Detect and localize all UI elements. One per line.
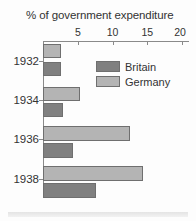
bottom-decorative-band [8,212,188,217]
y-axis-category-label: 1934 [1,94,39,106]
bar-britain-1936 [43,143,73,158]
bar-britain-1932 [43,62,61,76]
x-axis-tick [78,41,79,45]
legend-item-britain: Britain [96,60,156,73]
bar-britain-1934 [43,103,63,117]
bar-germany-1932 [43,44,61,58]
y-axis-category-label: 1936 [1,133,39,145]
x-axis-line [43,41,189,42]
bar-germany-1938 [43,166,143,181]
x-axis-tick-label: 10 [107,26,119,38]
x-axis-tick [113,41,114,45]
chart-container: % of government expenditure 5 10 15 20 1… [0,0,196,221]
legend-item-germany: Germany [96,75,170,88]
x-axis-tick [182,41,183,45]
x-axis-tick-label: 15 [141,26,153,38]
y-axis-category-label: 1932 [1,55,39,67]
legend-label: Britain [125,61,156,73]
y-axis-category-label: 1938 [1,173,39,185]
x-axis-tick [147,41,148,45]
plot-area: 5 10 15 20 1932 1934 1936 1938 [0,0,196,221]
x-axis-tick-label: 5 [75,26,81,38]
chart-legend: Britain Germany [96,60,188,90]
legend-swatch-icon [96,61,120,72]
legend-swatch-icon [96,76,120,87]
legend-label: Germany [125,76,170,88]
x-axis-tick-label: 20 [174,26,186,38]
bar-britain-1938 [43,183,96,198]
bar-germany-1936 [43,126,130,141]
bar-germany-1934 [43,87,80,101]
